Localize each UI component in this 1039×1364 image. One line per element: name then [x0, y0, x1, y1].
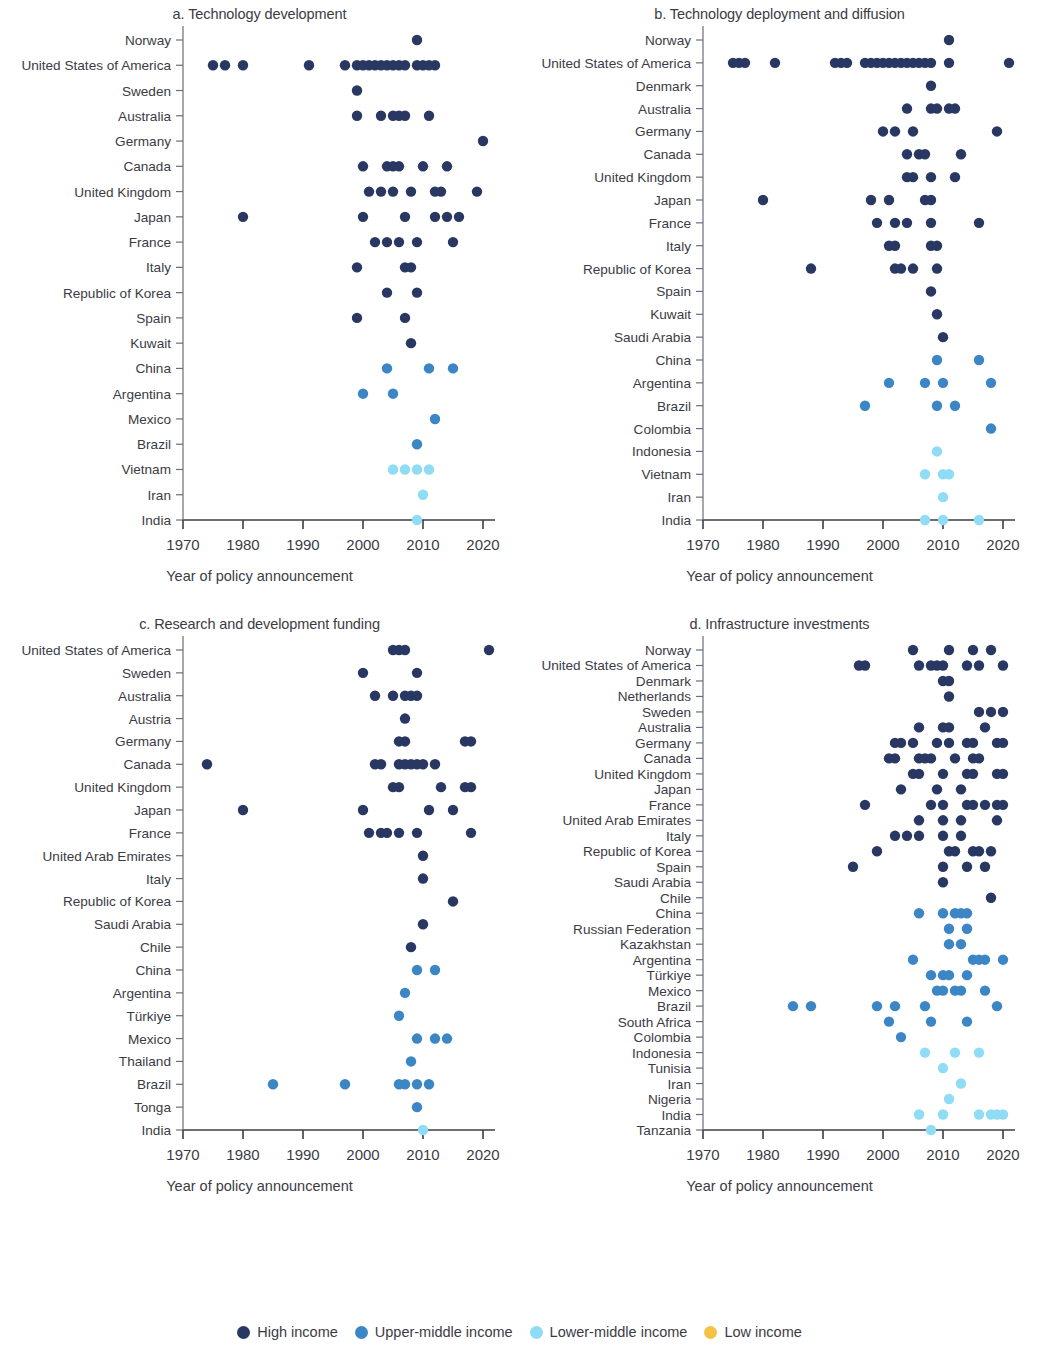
- data-point: [388, 186, 398, 196]
- data-point: [860, 401, 870, 411]
- data-point: [926, 1016, 936, 1026]
- data-point: [806, 1001, 816, 1011]
- data-point: [980, 985, 990, 995]
- data-point: [986, 423, 996, 433]
- data-point: [920, 515, 930, 525]
- data-point: [920, 469, 930, 479]
- data-point: [430, 759, 440, 769]
- category-label: Republic of Korea: [63, 894, 171, 909]
- data-point: [926, 286, 936, 296]
- data-point: [968, 738, 978, 748]
- category-label: South Africa: [618, 1015, 692, 1030]
- category-label: Japan: [654, 193, 691, 208]
- category-label: Brazil: [657, 399, 691, 414]
- data-point: [932, 738, 942, 748]
- legend-swatch-icon: [355, 1326, 368, 1339]
- data-point: [992, 1001, 1002, 1011]
- data-point: [370, 237, 380, 247]
- category-label: Vietnam: [641, 467, 691, 482]
- data-point: [944, 939, 954, 949]
- category-label: Italy: [146, 872, 171, 887]
- category-label: United States of America: [21, 643, 171, 658]
- data-point: [932, 309, 942, 319]
- data-point: [914, 769, 924, 779]
- data-point: [920, 1001, 930, 1011]
- data-point: [376, 759, 386, 769]
- data-point: [238, 212, 248, 222]
- x-tick-label: 1970: [686, 536, 719, 553]
- data-point: [412, 35, 422, 45]
- data-point: [424, 363, 434, 373]
- category-label: China: [655, 353, 691, 368]
- data-point: [938, 660, 948, 670]
- data-point: [238, 805, 248, 815]
- data-point: [974, 753, 984, 763]
- data-point: [394, 828, 404, 838]
- data-point: [448, 363, 458, 373]
- category-label: Thailand: [119, 1054, 171, 1069]
- category-label: United Arab Emirates: [43, 849, 172, 864]
- data-point: [478, 136, 488, 146]
- data-point: [956, 831, 966, 841]
- category-label: China: [655, 906, 691, 921]
- category-label: Republic of Korea: [583, 262, 691, 277]
- category-label: Canada: [123, 159, 171, 174]
- data-point: [418, 873, 428, 883]
- data-point: [424, 111, 434, 121]
- data-point: [448, 896, 458, 906]
- legend-label: Upper-middle income: [375, 1324, 513, 1340]
- category-label: Canada: [643, 751, 691, 766]
- data-point: [400, 988, 410, 998]
- data-point: [358, 212, 368, 222]
- category-label: Canada: [643, 147, 691, 162]
- data-point: [466, 782, 476, 792]
- category-label: Nigeria: [648, 1092, 692, 1107]
- scatter-canvas: NorwayUnited States of AmericaDenmarkAus…: [520, 0, 1039, 610]
- category-label: India: [142, 513, 172, 528]
- data-point: [860, 660, 870, 670]
- data-point: [944, 35, 954, 45]
- data-point: [400, 60, 410, 70]
- data-point: [400, 111, 410, 121]
- data-point: [980, 954, 990, 964]
- data-point: [962, 1016, 972, 1026]
- x-tick-label: 1970: [686, 1146, 719, 1163]
- data-point: [914, 660, 924, 670]
- category-label: Republic of Korea: [583, 844, 691, 859]
- data-point: [364, 828, 374, 838]
- data-point: [484, 645, 494, 655]
- data-point: [998, 800, 1008, 810]
- category-label: Saudi Arabia: [94, 917, 172, 932]
- scatter-canvas: NorwayUnited States of AmericaDenmarkNet…: [520, 610, 1039, 1220]
- category-label: Spain: [656, 284, 691, 299]
- data-point: [974, 355, 984, 365]
- category-label: Mexico: [648, 984, 691, 999]
- category-label: Germany: [635, 736, 691, 751]
- category-label: Tunisia: [648, 1061, 692, 1076]
- data-point: [890, 831, 900, 841]
- x-tick-label: 1970: [166, 1146, 199, 1163]
- category-label: Argentina: [633, 953, 692, 968]
- data-point: [908, 126, 918, 136]
- data-point: [418, 490, 428, 500]
- data-point: [388, 691, 398, 701]
- data-point: [956, 815, 966, 825]
- category-label: Japan: [134, 210, 171, 225]
- data-point: [896, 1032, 906, 1042]
- scatter-canvas: NorwayUnited States of AmericaSwedenAust…: [0, 0, 519, 610]
- data-point: [436, 186, 446, 196]
- category-label: Kazakhstan: [620, 937, 691, 952]
- data-point: [430, 60, 440, 70]
- data-point: [926, 81, 936, 91]
- data-point: [950, 401, 960, 411]
- data-point: [938, 332, 948, 342]
- data-point: [412, 1079, 422, 1089]
- category-label: Argentina: [633, 376, 692, 391]
- data-point: [992, 815, 1002, 825]
- data-point: [394, 782, 404, 792]
- data-point: [872, 1001, 882, 1011]
- legend-label: Low income: [724, 1324, 801, 1340]
- data-point: [890, 753, 900, 763]
- data-point: [430, 1033, 440, 1043]
- data-point: [938, 515, 948, 525]
